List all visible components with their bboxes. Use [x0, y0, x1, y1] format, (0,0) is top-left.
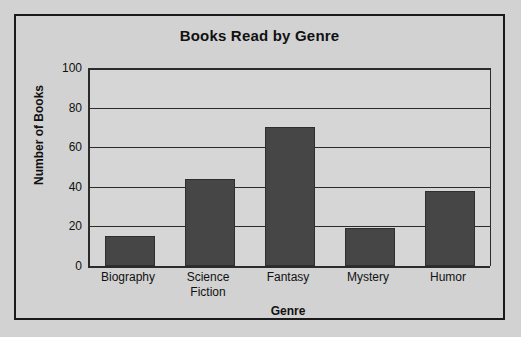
y-axis-title: Number of Books [32, 65, 46, 205]
plot-right-edge [490, 68, 491, 266]
x-tick-label-line: Fantasy [248, 270, 328, 285]
bar-slot [410, 68, 490, 266]
bar-humor[interactable] [425, 191, 475, 266]
y-tick-label: 60 [69, 140, 82, 154]
x-axis-title: Genre [88, 304, 488, 318]
bar-mystery[interactable] [345, 228, 395, 266]
bar-slot [90, 68, 170, 266]
x-tick-label-line: Mystery [328, 270, 408, 285]
x-tick-label-line: Biography [88, 270, 168, 285]
bar-fantasy[interactable] [265, 127, 315, 266]
x-tick-label: Humor [408, 270, 488, 285]
x-tick-label-line: Science [168, 270, 248, 285]
y-tick-label: 80 [69, 101, 82, 115]
bars-layer [90, 68, 490, 266]
x-tick-label: Biography [88, 270, 168, 285]
x-tick-label-line: Humor [408, 270, 488, 285]
chart-frame: Books Read by Genre Number of Books 0204… [14, 14, 505, 320]
bar-biography[interactable] [105, 236, 155, 266]
y-tick-label: 20 [69, 219, 82, 233]
y-tick-label: 100 [62, 61, 82, 75]
x-tick-label-line: Fiction [168, 285, 248, 300]
y-tick-label: 0 [75, 259, 82, 273]
bar-slot [170, 68, 250, 266]
plot-area: 020406080100 [88, 68, 490, 268]
y-tick-label: 40 [69, 180, 82, 194]
bar-slot [330, 68, 410, 266]
bar-slot [250, 68, 330, 266]
x-tick-label: Fantasy [248, 270, 328, 285]
x-tick-label: Mystery [328, 270, 408, 285]
chart-title: Books Read by Genre [16, 27, 503, 44]
x-tick-label: ScienceFiction [168, 270, 248, 300]
bar-science-fiction[interactable] [185, 179, 235, 266]
